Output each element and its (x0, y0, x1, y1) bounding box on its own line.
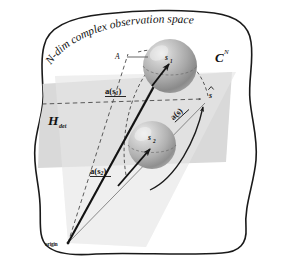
vector-a-s2-text: a(s2) (90, 166, 106, 177)
sphere-s1-body (143, 39, 197, 93)
subspace-symbol-text: H (47, 113, 59, 128)
sphere-s2-symbol: s (147, 133, 151, 142)
observation-space-diagram: N-dim complex observation space C N H de… (0, 0, 286, 273)
origin-label: origin (45, 241, 58, 247)
estimate-point-symbol: s (208, 91, 212, 100)
subspace-symbol-subscript: det (59, 123, 67, 129)
space-symbol-text: C (215, 50, 224, 65)
sphere-s1-subscript: 1 (170, 58, 173, 64)
sphere-s1 (143, 39, 197, 93)
sphere-s1-symbol: s (164, 53, 168, 62)
sphere-s2-subscript: 2 (152, 138, 156, 144)
figure-container: N-dim complex observation space C N H de… (0, 0, 286, 273)
aperture-label: A (114, 52, 120, 61)
origin-point (67, 242, 70, 245)
sphere-s2-body (128, 121, 176, 169)
sphere-s2 (128, 121, 176, 169)
vector-a-s1-text: a(s1) (105, 86, 121, 97)
space-symbol-superscript: N (223, 48, 229, 56)
